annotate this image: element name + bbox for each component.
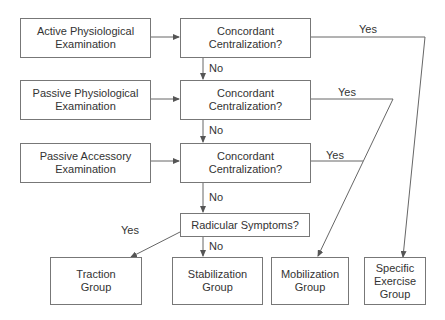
box-text: Centralization? [209,38,282,50]
box-text: Examination [55,163,116,175]
no-label-2: No [209,124,223,136]
specific-exercise-group-box: SpecificExerciseGroup [364,257,426,305]
box-text: Passive Physiological [33,87,139,99]
yes-label-4: Yes [121,224,139,236]
box-text: Active Physiological [37,25,134,37]
centralization-question-box-1: ConcordantCentralization? [180,18,311,58]
box-text: Centralization? [209,163,282,175]
box-text: Group [81,281,112,293]
no-label-3: No [209,191,223,203]
yes-label-3: Yes [326,149,344,161]
box-text: Examination [55,38,116,50]
box-text: Exercise [374,275,416,287]
radicular-symptoms-box: Radicular Symptoms? [180,213,310,237]
box-text: Specific [376,262,415,274]
box-text: Group [380,288,411,300]
yes-label-2: Yes [338,86,356,98]
box-text: Centralization? [209,100,282,112]
box-text: Traction [76,268,115,280]
box-text: Concordant [217,87,274,99]
passive-accessory-exam-box: Passive AccessoryExamination [20,143,151,183]
stabilization-group-box: StabilizationGroup [172,257,263,305]
box-text: Group [295,281,326,293]
active-physiological-exam-box: Active PhysiologicalExamination [20,18,151,58]
traction-group-box: TractionGroup [50,257,142,305]
no-label-4: No [209,240,223,252]
passive-physiological-exam-box: Passive PhysiologicalExamination [20,80,151,120]
box-text: Stabilization [188,268,247,280]
box-text: Radicular Symptoms? [191,219,299,232]
box-text: Mobilization [281,268,339,280]
no-label-1: No [209,62,223,74]
box-text: Concordant [217,150,274,162]
yes-label-1: Yes [359,23,377,35]
centralization-question-box-3: ConcordantCentralization? [180,143,311,183]
mobilization-group-box: MobilizationGroup [271,257,349,305]
box-text: Examination [55,100,116,112]
box-text: Passive Accessory [40,150,132,162]
box-text: Concordant [217,25,274,37]
centralization-question-box-2: ConcordantCentralization? [180,80,311,120]
box-text: Group [202,281,233,293]
